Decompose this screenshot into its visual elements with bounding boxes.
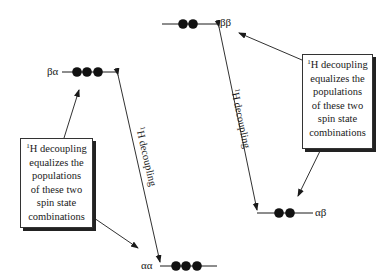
callout-text: H decoupling [30,143,87,154]
level-beta-alpha [62,67,118,77]
right-callout-box: 1H decoupling equalizes the populations … [302,54,373,149]
level-alpha-beta [257,208,313,218]
callout-line: of these two [23,183,90,197]
level-alpha-alpha [160,261,217,271]
callout-line: combinations [305,126,370,140]
callout-line: populations [23,169,90,183]
callout-line: populations [305,85,370,99]
callout-line: spin state [305,112,370,126]
callout-line: spin state [23,196,90,210]
callout-line: of these two [305,99,370,113]
callout-line: equalizes the [305,72,370,86]
label-alpha-beta: αβ [315,207,326,218]
callout-text: H decoupling [311,59,368,70]
callout-line: 1H decoupling [305,58,370,72]
callout-line: combinations [23,210,90,224]
callout-line: equalizes the [23,156,90,170]
left-callout-box: 1H decoupling equalizes the populations … [20,138,93,228]
label-alpha-alpha: αα [141,260,153,271]
label-beta-alpha: βα [47,66,58,77]
level-beta-beta [162,19,217,29]
callout-line: 1H decoupling [23,142,90,156]
label-beta-beta: ββ [220,17,231,28]
